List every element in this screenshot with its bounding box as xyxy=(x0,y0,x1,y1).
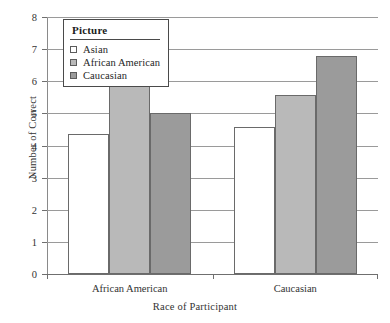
y-axis-tick xyxy=(42,17,47,18)
y-axis-tick-label: 6 xyxy=(0,76,37,87)
legend-swatch-icon xyxy=(70,46,77,53)
y-axis-tick xyxy=(42,210,47,211)
y-axis-tick-label: 7 xyxy=(0,44,37,55)
legend-items: AsianAfrican AmericanCaucasian xyxy=(70,43,160,82)
bar xyxy=(234,127,275,274)
x-axis-tick-label: Caucasian xyxy=(220,283,370,294)
x-axis-tick xyxy=(47,274,48,279)
legend-item: African American xyxy=(70,56,160,69)
x-axis-tick xyxy=(377,274,378,279)
legend-item-label: Caucasian xyxy=(83,70,127,81)
y-axis-tick-label: 5 xyxy=(0,108,37,119)
bar-chart-figure: Number of Correct Race of Participant 01… xyxy=(0,0,390,323)
y-axis-tick-label: 1 xyxy=(0,236,37,247)
bar xyxy=(316,56,357,274)
legend-item-label: Asian xyxy=(83,44,108,55)
legend-item: Caucasian xyxy=(70,69,160,82)
gridline xyxy=(47,17,378,18)
y-axis-tick-label: 0 xyxy=(0,269,37,280)
y-axis-tick-label: 4 xyxy=(0,140,37,151)
legend-item-label: African American xyxy=(83,57,160,68)
plot-area: 012345678 African AmericanCaucasian Pict… xyxy=(47,17,378,274)
y-axis-tick xyxy=(42,178,47,179)
bar xyxy=(275,95,316,274)
x-axis-tick-label: African American xyxy=(55,283,205,294)
legend-swatch-icon xyxy=(70,59,77,66)
y-axis-tick xyxy=(42,242,47,243)
x-axis-tick xyxy=(213,274,214,279)
x-axis-title: Race of Participant xyxy=(0,301,390,312)
bar xyxy=(109,81,150,274)
y-axis-tick xyxy=(42,49,47,50)
legend-swatch-icon xyxy=(70,72,77,79)
y-axis-tick xyxy=(42,146,47,147)
legend-item: Asian xyxy=(70,43,160,56)
y-axis-tick-label: 8 xyxy=(0,12,37,23)
chart-legend: Picture AsianAfrican AmericanCaucasian xyxy=(63,19,169,87)
y-axis-tick xyxy=(42,81,47,82)
bar xyxy=(68,134,109,274)
y-axis-tick-label: 3 xyxy=(0,172,37,183)
y-axis-tick-label: 2 xyxy=(0,204,37,215)
y-axis-tick xyxy=(42,113,47,114)
bar xyxy=(150,113,191,274)
legend-title: Picture xyxy=(70,23,160,40)
